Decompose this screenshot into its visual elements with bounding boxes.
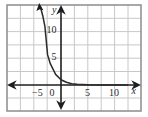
y-tick-10: 10 — [47, 24, 57, 35]
curve-arrow-icon — [36, 3, 43, 11]
y-axis-label: y — [51, 4, 57, 15]
x-tick-0: 0 — [50, 87, 55, 98]
x-tick-neg5: −5 — [32, 87, 43, 98]
x-tick-10: 10 — [109, 87, 119, 98]
exponential-graph: −5 0 5 10 x 10 5 y — [0, 0, 148, 117]
grid-lines — [7, 5, 141, 111]
x-tick-5: 5 — [85, 87, 90, 98]
y-tick-5: 5 — [52, 51, 57, 62]
x-axis-label: x — [131, 85, 137, 96]
